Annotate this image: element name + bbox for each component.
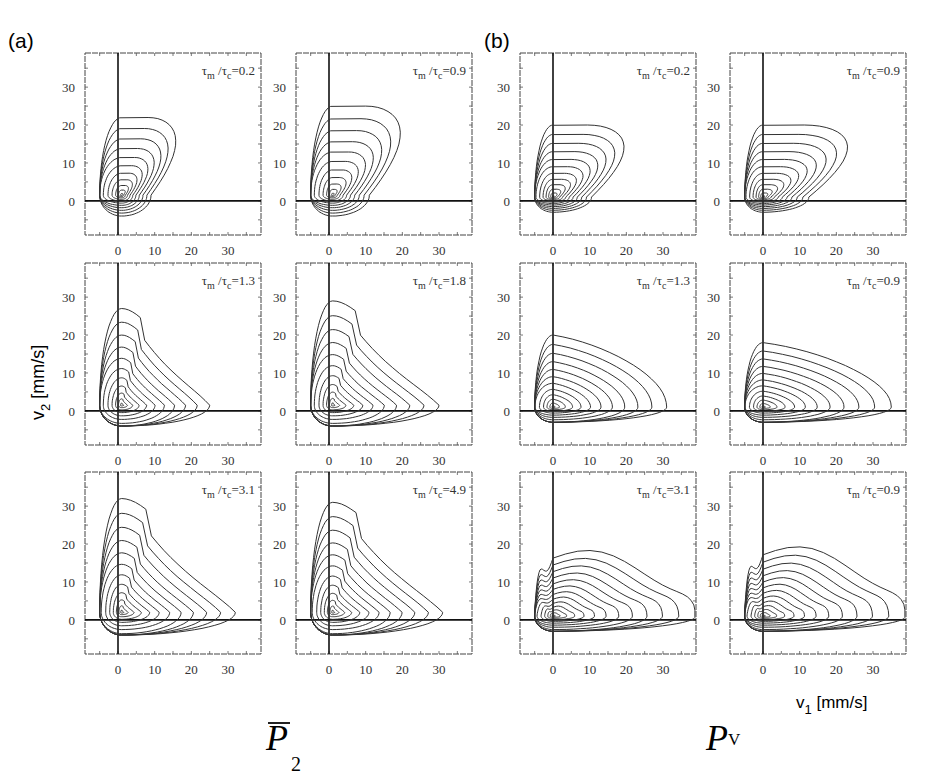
contour-level-9 [745, 366, 844, 422]
y-tick-label: 10 [62, 156, 75, 171]
panel-title: τm /τc=0.2 [637, 63, 690, 81]
group-b-symbol: P V [705, 718, 741, 758]
x-tick-label: 20 [396, 243, 409, 258]
contour-level-8 [311, 555, 391, 634]
x-tick-label: 0 [115, 453, 122, 468]
y-tick-label: 0 [69, 613, 76, 628]
y-tick-label: 10 [497, 156, 510, 171]
y-tick-label: 0 [714, 613, 721, 628]
group-b-symbol-sub: V [728, 730, 741, 749]
y-tick-label: 20 [62, 118, 75, 133]
contour-level-1 [121, 194, 123, 196]
x-tick-label: 0 [550, 662, 557, 677]
x-tick-label: 0 [550, 453, 557, 468]
contour-level-9 [745, 578, 843, 630]
y-tick-label: 20 [62, 328, 75, 343]
x-tick-label: 0 [326, 453, 333, 468]
contour-level-2 [330, 606, 339, 615]
y-tick-label: 0 [714, 404, 721, 419]
x-tick-label: 30 [657, 243, 670, 258]
x-tick-label: 30 [657, 453, 670, 468]
group-b-symbol-letter: P [705, 718, 728, 758]
x-tick-label: 20 [830, 243, 843, 258]
y-tick-label: 10 [273, 366, 286, 381]
panel-title: τm /τc=4.9 [413, 482, 466, 500]
y-tick-label: 10 [707, 366, 720, 381]
panel-b-r0-c1: 01020300102030τm /τc=0.9 [707, 53, 906, 258]
panel-title: τm /τc=3.1 [202, 482, 255, 500]
contour-level-9 [311, 543, 402, 635]
panel-a-label: (a) [8, 29, 34, 52]
panel-a-r1-c0: 01020300102030τm /τc=1.3 [62, 263, 261, 468]
y-tick-label: 10 [497, 575, 510, 590]
x-axis-label: v1 [mm/s] [796, 693, 867, 717]
y-tick-label: 20 [273, 537, 286, 552]
x-tick-label: 20 [620, 453, 633, 468]
x-tick-label: 20 [396, 453, 409, 468]
y-axis-label: v2 [mm/s] [28, 345, 53, 420]
panel-a-r0-c0: 01020300102030τm /τc=0.2 [62, 53, 261, 258]
y-tick-label: 30 [497, 499, 510, 514]
y-tick-label: 20 [497, 118, 510, 133]
y-tick-label: 0 [280, 404, 287, 419]
x-tick-label: 30 [657, 662, 670, 677]
x-tick-label: 0 [550, 243, 557, 258]
y-tick-label: 30 [707, 499, 720, 514]
contour-level-6 [540, 173, 577, 202]
x-tick-label: 30 [222, 662, 235, 677]
panel-frame [520, 263, 696, 445]
x-tick-label: 30 [433, 453, 446, 468]
x-tick-label: 0 [760, 243, 767, 258]
contour-level-10 [535, 353, 638, 422]
panel-frame [296, 53, 472, 235]
contour-level-1 [121, 403, 124, 406]
y-tick-label: 30 [62, 499, 75, 514]
contour-level-2 [119, 606, 128, 615]
y-tick-label: 10 [62, 575, 75, 590]
y-tick-label: 20 [707, 537, 720, 552]
panel-title: τm /τc=0.9 [847, 273, 900, 291]
x-tick-label: 30 [867, 453, 880, 468]
y-tick-label: 30 [497, 80, 510, 95]
panel-b-r0-c0: 01020300102030τm /τc=0.2 [497, 53, 696, 258]
x-tick-label: 10 [359, 243, 372, 258]
y-axis-label-var: v [28, 411, 48, 420]
group-a-symbol-sub: 2 [291, 753, 301, 775]
x-tick-label: 10 [148, 453, 161, 468]
contour-level-11 [311, 301, 439, 426]
x-tick-label: 0 [115, 243, 122, 258]
x-tick-label: 10 [793, 662, 806, 677]
x-tick-label: 10 [583, 453, 596, 468]
contour-level-1 [332, 403, 335, 406]
contour-level-11 [535, 134, 615, 210]
svg-text:v2 [mm/s]: v2 [mm/s] [28, 345, 53, 420]
y-tick-label: 10 [707, 156, 720, 171]
panel-a-r2-c1: 01020300102030τm /τc=4.9 [273, 472, 472, 677]
contour-level-10 [535, 143, 606, 208]
panels-group: 01020300102030τm /τc=0.201020300102030τm… [62, 53, 906, 677]
contour-level-8 [100, 553, 181, 634]
panel-title: τm /τc=1.8 [413, 273, 466, 291]
y-tick-label: 30 [273, 80, 286, 95]
x-tick-label: 20 [830, 453, 843, 468]
y-tick-label: 0 [69, 194, 76, 209]
y-tick-label: 30 [62, 80, 75, 95]
y-tick-label: 30 [62, 290, 75, 305]
y-axis-label-unit: [mm/s] [28, 345, 48, 404]
x-tick-label: 30 [433, 243, 446, 258]
panel-title: τm /τc=1.3 [202, 273, 255, 291]
panel-a-r1-c1: 01020300102030τm /τc=1.8 [273, 263, 472, 468]
x-tick-label: 20 [185, 243, 198, 258]
contour-level-1 [332, 193, 335, 195]
y-tick-label: 20 [273, 328, 286, 343]
panel-title: τm /τc=0.2 [202, 63, 255, 81]
y-tick-label: 10 [273, 156, 286, 171]
x-tick-label: 30 [867, 662, 880, 677]
panel-title: τm /τc=0.9 [413, 63, 466, 81]
x-tick-label: 0 [760, 453, 767, 468]
y-tick-label: 20 [497, 537, 510, 552]
x-tick-label: 20 [620, 662, 633, 677]
contour-level-10 [311, 316, 424, 426]
x-tick-label: 10 [359, 453, 372, 468]
x-tick-label: 30 [222, 243, 235, 258]
